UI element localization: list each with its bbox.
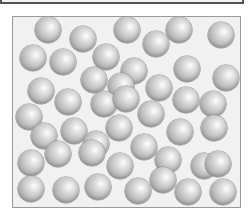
particle-sphere xyxy=(106,115,132,141)
particle-sphere xyxy=(210,179,236,205)
particle-sphere xyxy=(200,91,226,117)
particle-container xyxy=(12,16,241,208)
particle-sphere xyxy=(79,140,105,166)
particle-sphere xyxy=(175,179,201,205)
particle-sphere xyxy=(174,56,200,82)
particle-sphere xyxy=(18,150,44,176)
particle-sphere xyxy=(20,45,46,71)
particle-sphere xyxy=(146,75,172,101)
particle-sphere xyxy=(81,67,107,93)
particle-sphere xyxy=(85,174,111,200)
particle-sphere xyxy=(138,101,164,127)
particle-sphere xyxy=(213,65,239,91)
particle-sphere xyxy=(50,49,76,75)
particle-sphere xyxy=(35,17,61,43)
particle-sphere xyxy=(45,141,71,167)
particle-sphere xyxy=(167,119,193,145)
cropped-panel-edge xyxy=(0,0,244,4)
particle-sphere xyxy=(173,87,199,113)
particle-sphere xyxy=(107,153,133,179)
particle-sphere xyxy=(201,115,227,141)
particle-sphere xyxy=(131,134,157,160)
particle-sphere xyxy=(55,89,81,115)
particle-sphere xyxy=(18,176,44,202)
particle-sphere xyxy=(114,17,140,43)
particle-sphere xyxy=(143,31,169,57)
particle-sphere xyxy=(28,78,54,104)
particle-sphere xyxy=(150,167,176,193)
particle-sphere xyxy=(70,26,96,52)
particle-sphere xyxy=(205,151,231,177)
particle-sphere xyxy=(113,86,139,112)
particle-sphere xyxy=(208,22,234,48)
particle-sphere xyxy=(166,17,192,43)
particle-sphere xyxy=(93,44,119,70)
particle-sphere xyxy=(125,178,151,204)
particle-sphere xyxy=(53,177,79,203)
